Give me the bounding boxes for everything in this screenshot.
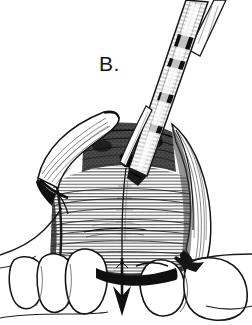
figure-container: B.	[0, 0, 252, 325]
surgical-illustration	[0, 0, 252, 325]
tooth-right-1	[140, 260, 185, 316]
panel-label: B.	[99, 53, 120, 74]
